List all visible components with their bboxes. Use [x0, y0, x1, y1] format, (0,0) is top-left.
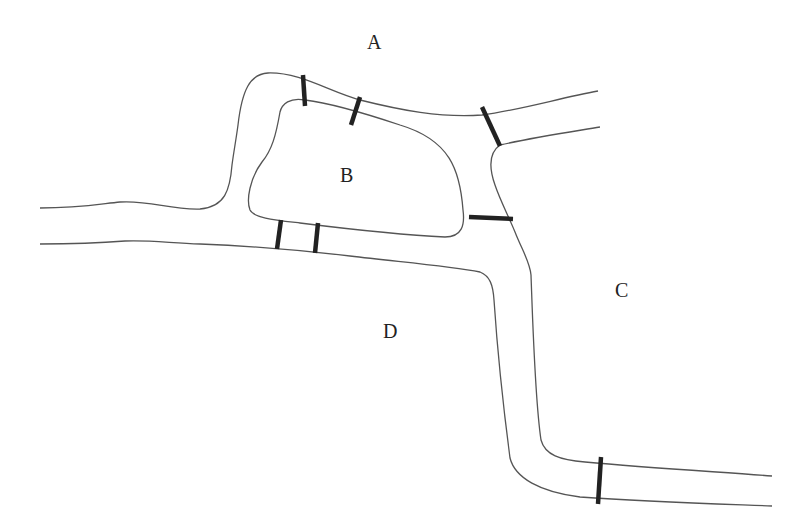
bridge-6 [315, 223, 318, 253]
river-bank-a-c [491, 127, 772, 476]
bridge-2 [351, 97, 360, 125]
bridge-1 [303, 75, 305, 106]
river-bank-south [40, 241, 772, 506]
region-label-c: C [615, 279, 628, 301]
region-label-b: B [340, 164, 353, 186]
island-b-shore [249, 99, 464, 237]
region-label-a: A [367, 31, 382, 53]
bridges-diagram: A B C D [0, 0, 808, 528]
river-bank-north [40, 73, 598, 209]
bridge-7 [598, 457, 601, 504]
region-label-d: D [383, 320, 397, 342]
bridge-4 [469, 217, 513, 219]
bridge-5 [277, 220, 281, 249]
bridges [277, 75, 601, 504]
